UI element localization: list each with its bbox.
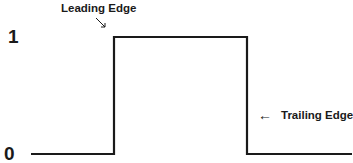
left-arrow-icon: ← [258, 108, 272, 122]
leading-edge-arrow-icon [96, 18, 105, 27]
y-tick-low: 0 [4, 144, 15, 163]
y-tick-high: 1 [8, 27, 19, 46]
trailing-edge-label: Trailing Edge [281, 110, 353, 122]
pulse-line [31, 37, 352, 154]
leading-edge-label: Leading Edge [61, 3, 136, 15]
